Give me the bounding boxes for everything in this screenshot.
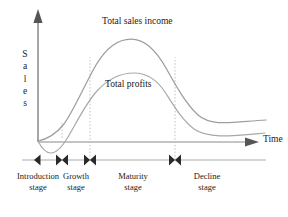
stage-label-growth-line2: stage	[52, 182, 100, 193]
stage-label-maturity-line2: stage	[108, 182, 158, 193]
y-axis-label-letter-5: s	[18, 97, 32, 109]
stage-label-decline: Decline stage	[183, 171, 231, 194]
stage-label-growth: Growth stage	[52, 171, 100, 194]
y-axis-label-letter-1: S	[18, 48, 32, 60]
y-axis-arrow-icon	[33, 9, 42, 23]
stage-label-growth-line1: Growth	[52, 171, 100, 182]
stage-label-maturity: Maturity stage	[108, 171, 158, 194]
stage-marker-introduction-start-icon	[34, 155, 41, 166]
total-sales-income-label: Total sales income	[102, 17, 173, 27]
y-axis-label-letter-3: l	[18, 73, 32, 85]
stage-label-decline-line1: Decline	[183, 171, 231, 182]
y-axis-label-letter-4: e	[18, 85, 32, 97]
stage-label-decline-line2: stage	[183, 182, 231, 193]
x-axis-label: Time	[263, 135, 283, 145]
total-profits-label: Total profits	[105, 80, 152, 90]
stage-label-maturity-line1: Maturity	[108, 171, 158, 182]
y-axis-label: S a l e s	[18, 48, 32, 110]
y-axis-label-letter-2: a	[18, 60, 32, 72]
total-sales-income-curve	[38, 39, 266, 141]
x-axis-arrow-icon	[245, 137, 259, 146]
stage-marker-introduction-growth-icon	[56, 155, 68, 166]
